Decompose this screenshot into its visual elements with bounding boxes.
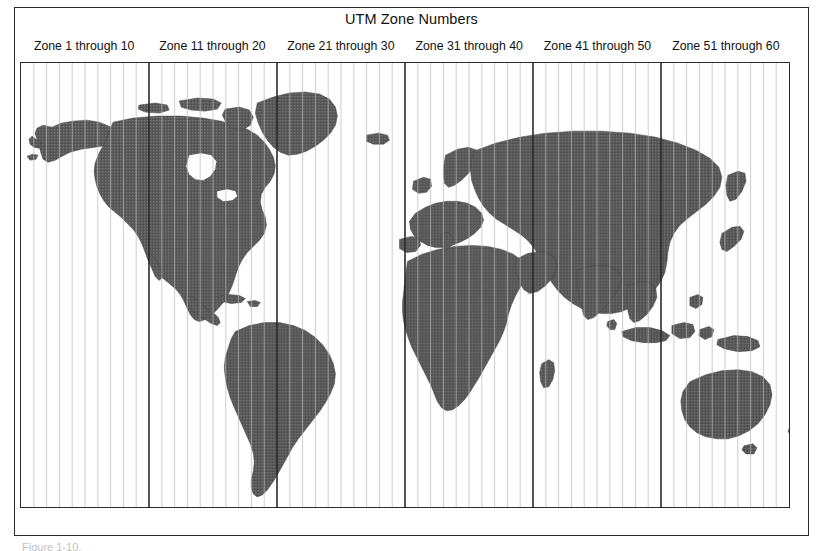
zone-group-label-3: Zone 21 through 30 bbox=[277, 36, 405, 56]
zone-group-label-6: Zone 51 through 60 bbox=[662, 36, 790, 56]
zone-group-label-1: Zone 1 through 10 bbox=[20, 36, 148, 56]
world-map bbox=[21, 63, 789, 507]
zone-group-label-5: Zone 41 through 50 bbox=[533, 36, 661, 56]
zone-label-row: Zone 1 through 10 Zone 11 through 20 Zon… bbox=[20, 36, 790, 56]
world-map-svg bbox=[21, 63, 789, 507]
map-frame bbox=[20, 62, 790, 508]
zone-group-label-4: Zone 31 through 40 bbox=[405, 36, 533, 56]
page-title: UTM Zone Numbers bbox=[14, 11, 809, 27]
figure-caption: Figure 1-10. bbox=[22, 541, 81, 551]
zone-group-label-2: Zone 11 through 20 bbox=[148, 36, 276, 56]
land-iceland bbox=[366, 133, 389, 144]
utm-zone-figure: UTM Zone Numbers Zone 1 through 10 Zone … bbox=[0, 0, 823, 551]
